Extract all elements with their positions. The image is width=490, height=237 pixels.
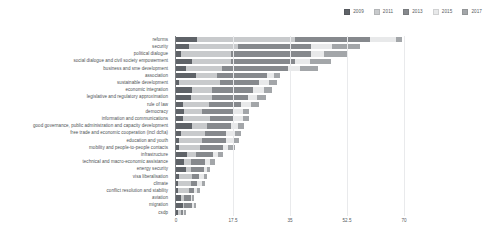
bar-segment-2017[interactable]: [235, 131, 242, 136]
bar-row[interactable]: [176, 116, 249, 121]
bar-segment-2013[interactable]: [202, 138, 226, 143]
legend-item-2015[interactable]: 2015: [433, 9, 453, 15]
bar-segment-2013[interactable]: [184, 203, 192, 208]
bar-segment-2013[interactable]: [200, 145, 223, 150]
bar-row[interactable]: [176, 188, 200, 193]
bar-segment-2009[interactable]: [176, 167, 186, 172]
bar-segment-2017[interactable]: [396, 37, 403, 42]
bar-segment-2011[interactable]: [192, 59, 231, 64]
bar-segment-2015[interactable]: [253, 87, 264, 92]
bar-segment-2011[interactable]: [191, 95, 212, 100]
bar-segment-2013[interactable]: [196, 152, 214, 157]
bar-segment-2009[interactable]: [176, 87, 192, 92]
bar-row[interactable]: [176, 66, 318, 71]
bar-segment-2011[interactable]: [179, 80, 220, 85]
bar-segment-2017[interactable]: [243, 109, 250, 114]
bar-row[interactable]: [176, 51, 347, 56]
bar-segment-2013[interactable]: [205, 131, 226, 136]
bar-row[interactable]: [176, 174, 207, 179]
bar-row[interactable]: [176, 59, 331, 64]
bar-segment-2011[interactable]: [192, 123, 207, 128]
bar-segment-2009[interactable]: [176, 37, 197, 42]
bar-segment-2013[interactable]: [222, 66, 289, 71]
bar-segment-2017[interactable]: [257, 95, 265, 100]
bar-row[interactable]: [176, 123, 244, 128]
bar-row[interactable]: [176, 203, 196, 208]
bar-row[interactable]: [176, 44, 360, 49]
bar-segment-2017[interactable]: [310, 59, 331, 64]
bar-segment-2011[interactable]: [179, 138, 202, 143]
bar-segment-2017[interactable]: [251, 102, 259, 107]
bar-row[interactable]: [176, 167, 210, 172]
bar-segment-2011[interactable]: [181, 51, 231, 56]
bar-segment-2011[interactable]: [183, 116, 211, 121]
bar-segment-2017[interactable]: [210, 159, 215, 164]
bar-segment-2013[interactable]: [238, 44, 311, 49]
bar-row[interactable]: [176, 145, 235, 150]
bar-row[interactable]: [176, 109, 249, 114]
bar-segment-2009[interactable]: [176, 59, 192, 64]
bar-segment-2011[interactable]: [181, 131, 205, 136]
bar-row[interactable]: [176, 152, 223, 157]
bar-row[interactable]: [176, 102, 259, 107]
bar-segment-2017[interactable]: [238, 123, 245, 128]
legend-item-2011[interactable]: 2011: [374, 9, 393, 15]
bar-segment-2011[interactable]: [184, 109, 202, 114]
bar-segment-2011[interactable]: [192, 87, 212, 92]
bar-segment-2017[interactable]: [202, 181, 205, 186]
bar-row[interactable]: [176, 87, 272, 92]
bar-segment-2009[interactable]: [176, 159, 184, 164]
legend-item-2013[interactable]: 2013: [403, 9, 423, 15]
bar-row[interactable]: [176, 195, 194, 200]
bar-segment-2017[interactable]: [269, 80, 277, 85]
bar-segment-2017[interactable]: [184, 210, 186, 215]
bar-segment-2013[interactable]: [210, 116, 233, 121]
bar-segment-2013[interactable]: [220, 80, 259, 85]
bar-segment-2015[interactable]: [233, 109, 243, 114]
bar-segment-2011[interactable]: [189, 44, 238, 49]
bar-segment-2009[interactable]: [176, 109, 184, 114]
bar-segment-2011[interactable]: [187, 152, 195, 157]
bar-segment-2017[interactable]: [194, 203, 196, 208]
bar-segment-2013[interactable]: [202, 109, 233, 114]
bar-row[interactable]: [176, 210, 186, 215]
bar-segment-2015[interactable]: [241, 102, 251, 107]
bar-segment-2013[interactable]: [209, 102, 242, 107]
bar-segment-2015[interactable]: [295, 59, 310, 64]
bar-segment-2013[interactable]: [191, 167, 204, 172]
bar-segment-2009[interactable]: [176, 66, 186, 71]
bar-segment-2017[interactable]: [197, 188, 200, 193]
bar-segment-2013[interactable]: [231, 59, 295, 64]
bar-segment-2015[interactable]: [311, 51, 324, 56]
bar-segment-2013[interactable]: [295, 37, 370, 42]
bar-segment-2011[interactable]: [178, 181, 191, 186]
bar-segment-2013[interactable]: [217, 73, 267, 78]
bar-segment-2009[interactable]: [176, 73, 196, 78]
bar-row[interactable]: [176, 80, 277, 85]
bar-segment-2017[interactable]: [192, 195, 194, 200]
bar-row[interactable]: [176, 95, 266, 100]
bar-segment-2017[interactable]: [218, 152, 223, 157]
bar-segment-2015[interactable]: [311, 44, 332, 49]
bar-segment-2015[interactable]: [259, 80, 269, 85]
bar-row[interactable]: [176, 73, 280, 78]
bar-row[interactable]: [176, 159, 215, 164]
bar-segment-2011[interactable]: [179, 174, 192, 179]
bar-segment-2011[interactable]: [186, 66, 222, 71]
legend-item-2009[interactable]: 2009: [344, 9, 364, 15]
bar-segment-2009[interactable]: [176, 123, 192, 128]
bar-segment-2011[interactable]: [179, 145, 200, 150]
bar-segment-2017[interactable]: [243, 116, 250, 121]
bar-segment-2017[interactable]: [300, 66, 318, 71]
legend-item-2017[interactable]: 2017: [462, 9, 482, 15]
bar-row[interactable]: [176, 138, 239, 143]
bar-row[interactable]: [176, 131, 241, 136]
bar-segment-2015[interactable]: [248, 95, 258, 100]
bar-segment-2015[interactable]: [233, 116, 243, 121]
bar-segment-2011[interactable]: [178, 188, 189, 193]
bar-segment-2013[interactable]: [207, 123, 231, 128]
bar-segment-2017[interactable]: [324, 51, 347, 56]
bar-segment-2011[interactable]: [196, 73, 217, 78]
bar-segment-2013[interactable]: [191, 159, 206, 164]
bar-segment-2017[interactable]: [274, 73, 281, 78]
